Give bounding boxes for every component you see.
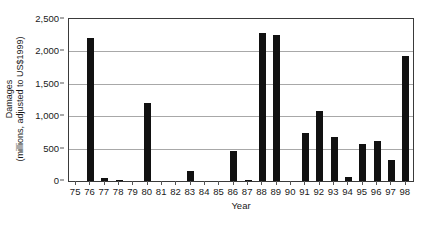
y-axis-tick-label: 0 bbox=[54, 175, 59, 186]
x-axis-tick-label: 97 bbox=[385, 186, 396, 197]
bar bbox=[359, 144, 366, 181]
bar bbox=[230, 151, 237, 181]
x-axis-tick-label: 95 bbox=[357, 186, 368, 197]
x-axis-tick-mark bbox=[304, 181, 305, 185]
x-axis-tick-label: 98 bbox=[400, 186, 411, 197]
bar-slot bbox=[112, 19, 126, 181]
bar bbox=[273, 35, 280, 181]
chart-figure: Damages (millions, adjusted to US$1999) … bbox=[0, 0, 425, 232]
x-axis-tick-mark bbox=[276, 181, 277, 185]
x-axis-tick-label: 81 bbox=[156, 186, 167, 197]
bar-slot bbox=[69, 19, 83, 181]
bar bbox=[402, 56, 409, 181]
x-axis-tick-mark bbox=[362, 181, 363, 185]
bar-slot bbox=[83, 19, 97, 181]
x-axis-tick-mark bbox=[190, 181, 191, 185]
x-axis-tick-label: 80 bbox=[142, 186, 153, 197]
bar bbox=[302, 133, 309, 181]
x-axis-tick-mark bbox=[147, 181, 148, 185]
bar-slot bbox=[155, 19, 169, 181]
x-axis-tick-mark bbox=[218, 181, 219, 185]
x-axis-tick-label: 94 bbox=[342, 186, 353, 197]
x-axis-tick-mark bbox=[261, 181, 262, 185]
x-axis-tick-mark bbox=[319, 181, 320, 185]
bar-slot bbox=[298, 19, 312, 181]
bar-slot bbox=[327, 19, 341, 181]
x-axis-tick-mark bbox=[75, 181, 76, 185]
y-axis-tick-mark bbox=[60, 115, 64, 116]
x-axis-tick-label: 91 bbox=[299, 186, 310, 197]
x-axis-tick-mark bbox=[333, 181, 334, 185]
x-axis-tick-mark bbox=[233, 181, 234, 185]
x-axis-tick-mark bbox=[204, 181, 205, 185]
bar-slot bbox=[255, 19, 269, 181]
x-axis-tick-mark bbox=[376, 181, 377, 185]
x-axis-tick-mark bbox=[247, 181, 248, 185]
bar-slot bbox=[227, 19, 241, 181]
bar-series bbox=[69, 19, 413, 181]
y-axis-tick-mark bbox=[60, 147, 64, 148]
x-axis-tick-label: 83 bbox=[185, 186, 196, 197]
bar-slot bbox=[169, 19, 183, 181]
bar-slot bbox=[356, 19, 370, 181]
x-axis-tick-mark bbox=[290, 181, 291, 185]
plot-area bbox=[68, 18, 414, 182]
bar bbox=[316, 111, 323, 181]
x-axis-tick-mark bbox=[175, 181, 176, 185]
x-axis-tick-mark bbox=[132, 181, 133, 185]
x-axis-tick-label: 96 bbox=[371, 186, 382, 197]
x-axis-tick-label: 93 bbox=[328, 186, 339, 197]
x-axis-tick-mark bbox=[405, 181, 406, 185]
bar bbox=[187, 171, 194, 181]
x-axis-tick-mark bbox=[161, 181, 162, 185]
y-axis-tick-label: 2,000 bbox=[35, 45, 59, 56]
x-axis-tick-label: 89 bbox=[271, 186, 282, 197]
bar bbox=[331, 137, 338, 181]
x-axis-tick-mark bbox=[347, 181, 348, 185]
y-axis-tick-mark bbox=[60, 50, 64, 51]
x-axis-tick-label: 77 bbox=[99, 186, 110, 197]
bar-slot bbox=[126, 19, 140, 181]
x-axis-tick-mark bbox=[390, 181, 391, 185]
y-axis-tick-label: 500 bbox=[43, 142, 59, 153]
x-axis-tick-mark bbox=[118, 181, 119, 185]
bar bbox=[388, 160, 395, 181]
x-axis-title: Year bbox=[68, 200, 414, 211]
x-axis-tick-label: 79 bbox=[127, 186, 138, 197]
y-axis-tick-labels: 05001,0001,5002,0002,500 bbox=[26, 12, 64, 188]
y-axis-tick-label: 1,000 bbox=[35, 110, 59, 121]
bar-slot bbox=[241, 19, 255, 181]
y-axis-title-line1: Damages bbox=[4, 36, 15, 161]
bar-slot bbox=[370, 19, 384, 181]
bar-slot bbox=[384, 19, 398, 181]
bar bbox=[374, 141, 381, 181]
x-axis-tick-label: 88 bbox=[256, 186, 267, 197]
bar-slot bbox=[399, 19, 413, 181]
x-axis-tick-mark bbox=[104, 181, 105, 185]
bar bbox=[87, 38, 94, 181]
y-axis-tick-mark bbox=[60, 180, 64, 181]
x-axis-tick-label: 87 bbox=[242, 186, 253, 197]
x-axis-tick-label: 92 bbox=[314, 186, 325, 197]
y-axis-tick-mark bbox=[60, 18, 64, 19]
bar-slot bbox=[141, 19, 155, 181]
bar-slot bbox=[270, 19, 284, 181]
x-axis-tick-label: 76 bbox=[84, 186, 95, 197]
x-axis-tick-label: 78 bbox=[113, 186, 124, 197]
bar bbox=[259, 33, 266, 181]
y-axis-tick-mark bbox=[60, 82, 64, 83]
bar bbox=[144, 103, 151, 181]
y-axis-tick-label: 1,500 bbox=[35, 77, 59, 88]
bar-slot bbox=[98, 19, 112, 181]
y-axis-title-line2: (millions, adjusted to US$1999) bbox=[15, 36, 26, 161]
bar-slot bbox=[341, 19, 355, 181]
x-axis-tick-label: 84 bbox=[199, 186, 210, 197]
x-axis-tick-label: 82 bbox=[170, 186, 181, 197]
bar-slot bbox=[198, 19, 212, 181]
bar-slot bbox=[184, 19, 198, 181]
x-axis-tick-label: 85 bbox=[213, 186, 224, 197]
x-axis-tick-mark bbox=[89, 181, 90, 185]
bar-slot bbox=[212, 19, 226, 181]
x-axis-tick-label: 86 bbox=[228, 186, 239, 197]
bar-slot bbox=[284, 19, 298, 181]
